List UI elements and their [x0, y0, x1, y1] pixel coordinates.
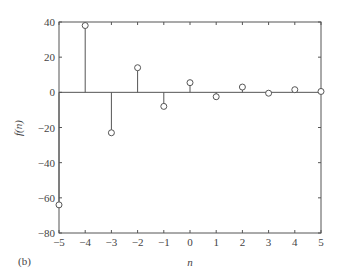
y-axis-label: f(n) [12, 120, 25, 136]
x-tick-label: −4 [79, 236, 91, 248]
y-tick-label: −20 [38, 122, 56, 134]
x-tick-label: −1 [158, 236, 170, 248]
stem-marker [187, 80, 193, 86]
stem-marker [82, 23, 88, 29]
x-tick-label: 5 [318, 236, 324, 248]
x-tick-label: 2 [240, 236, 246, 248]
tick-labels: −5−4−3−2−101234540200−20−40−60−80 [38, 16, 324, 248]
stem-marker [161, 103, 167, 109]
y-tick-label: 40 [44, 16, 56, 28]
x-tick-label: 1 [213, 236, 219, 248]
x-tick-label: 4 [292, 236, 298, 248]
plot-frame [59, 22, 321, 233]
plot-axes [59, 22, 321, 233]
data-stems [56, 23, 324, 208]
y-tick-label: −60 [38, 192, 56, 204]
x-tick-label: −2 [132, 236, 144, 248]
y-tick-label: −80 [38, 227, 56, 239]
stem-marker [56, 202, 62, 208]
panel-label: (b) [18, 255, 31, 268]
stem-marker [213, 94, 219, 100]
y-tick-label: −40 [38, 157, 56, 169]
stem-marker [108, 130, 114, 136]
stem-marker [239, 84, 245, 90]
stem-marker [135, 65, 141, 71]
x-tick-label: 0 [187, 236, 193, 248]
stem-marker [292, 87, 298, 93]
x-tick-label: −3 [106, 236, 118, 248]
x-axis-label: n [187, 256, 193, 268]
stem-marker [318, 88, 324, 94]
x-tick-label: 3 [266, 236, 272, 248]
stem-plot: −5−4−3−2−101234540200−20−40−60−80 n f(n)… [0, 0, 341, 278]
stem-marker [266, 90, 272, 96]
y-tick-label: 0 [50, 86, 56, 98]
y-tick-label: 20 [44, 51, 56, 63]
